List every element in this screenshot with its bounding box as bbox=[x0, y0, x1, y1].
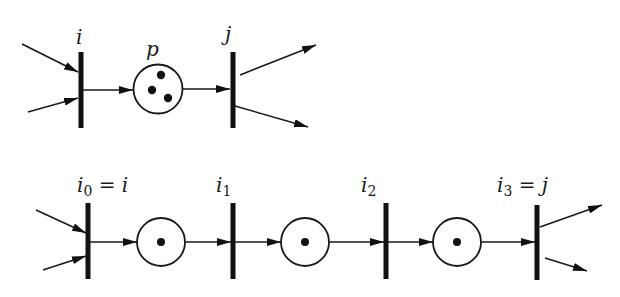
transition-label: j bbox=[221, 22, 231, 46]
place-q3 bbox=[433, 218, 481, 266]
place-q1 bbox=[137, 218, 185, 266]
transition-label: i1 bbox=[216, 173, 231, 199]
transition-i1: i1 bbox=[216, 173, 236, 279]
transition-label: i0 = i bbox=[77, 173, 128, 199]
bottom-net: i0 = i i1 i2 bbox=[36, 173, 602, 280]
transition-label: i2 bbox=[361, 173, 376, 199]
arc-i3-to-out-2 bbox=[545, 258, 587, 271]
transition-i2: i2 bbox=[361, 173, 389, 279]
transition-bar bbox=[535, 205, 540, 280]
petri-net-figure: i p j i0 = i bbox=[0, 0, 620, 297]
token-dot bbox=[453, 238, 461, 246]
place-p: p bbox=[134, 37, 183, 114]
arc-in-2-to-i bbox=[28, 98, 78, 112]
arc-i3-to-out-1 bbox=[540, 205, 602, 227]
transition-label: i3 = j bbox=[497, 173, 548, 199]
arc-j-to-out-1 bbox=[240, 45, 316, 75]
transition-bar bbox=[231, 52, 236, 128]
transition-bar bbox=[384, 203, 389, 279]
arc-in-1-to-i0 bbox=[36, 210, 86, 233]
arc-j-to-out-2 bbox=[235, 106, 308, 127]
token-dot bbox=[164, 94, 172, 102]
transition-bar bbox=[86, 203, 91, 279]
token-dot bbox=[301, 238, 309, 246]
place-circle bbox=[134, 65, 183, 114]
token-dot bbox=[148, 86, 156, 94]
place-label: p bbox=[146, 37, 159, 61]
top-net: i p j bbox=[22, 22, 316, 128]
transition-i: i bbox=[76, 25, 84, 128]
arc-in-1-to-i bbox=[22, 44, 78, 72]
token-dot bbox=[157, 238, 165, 246]
transition-label: i bbox=[76, 25, 82, 49]
transition-bar bbox=[79, 52, 84, 128]
transition-bar bbox=[231, 203, 236, 279]
arc-in-2-to-i0 bbox=[43, 256, 86, 270]
transition-i0: i0 = i bbox=[77, 173, 128, 279]
place-q2 bbox=[281, 218, 329, 266]
token-dot bbox=[157, 71, 165, 79]
transition-j: j bbox=[221, 22, 236, 128]
